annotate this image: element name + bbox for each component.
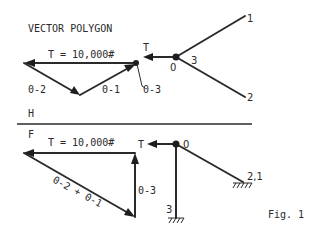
member-0-1-label: 0-1 bbox=[102, 84, 120, 95]
member-0-2-label: 0-2 bbox=[28, 84, 46, 95]
combined-member-label: 0-2 + 0-1 bbox=[51, 174, 104, 209]
tension-label: T bbox=[143, 42, 149, 53]
member-0-3-label: 0-3 bbox=[138, 185, 156, 196]
figure-title: VECTOR POLYGON bbox=[28, 23, 112, 34]
polygon-node bbox=[133, 60, 139, 66]
node-label: 0 bbox=[170, 62, 176, 73]
figure-caption: Fig. 1 bbox=[268, 209, 304, 220]
top-vector-polygon: T = 10,000# 0-2 0-1 0-3 bbox=[24, 49, 161, 95]
vector-polygon-figure: VECTOR POLYGON T = 10,000# 0-2 0-1 0-3 T… bbox=[0, 0, 319, 238]
member-2 bbox=[176, 57, 245, 97]
tension-label: T bbox=[138, 139, 144, 150]
node-label: 0 bbox=[183, 139, 189, 150]
joint-node bbox=[173, 54, 180, 61]
ground-support-icon bbox=[233, 183, 252, 188]
arrowhead-icon bbox=[143, 53, 153, 61]
end-1-label: 1 bbox=[247, 13, 253, 24]
joint-node bbox=[173, 141, 180, 148]
support-2-1-label: 2,1 bbox=[247, 171, 263, 182]
h-label: H bbox=[28, 108, 34, 119]
arrowhead-icon bbox=[131, 153, 139, 164]
arrowhead-icon bbox=[147, 140, 157, 148]
bottom-structure: T 3 2,1 0 bbox=[138, 139, 263, 223]
member-0-3-label: 0-3 bbox=[143, 84, 161, 95]
f-label: F bbox=[28, 129, 34, 140]
end-2-label: 2 bbox=[247, 92, 253, 103]
arrowhead-icon bbox=[124, 208, 135, 217]
support-3-label: 3 bbox=[166, 204, 172, 215]
combined-member-vector bbox=[24, 153, 130, 214]
tension-label: T = 10,000# bbox=[48, 137, 114, 148]
tension-label: T = 10,000# bbox=[48, 49, 114, 60]
member-3-label: 3 bbox=[191, 55, 197, 66]
member-1 bbox=[176, 16, 245, 57]
ground-support-icon bbox=[168, 218, 184, 223]
arrowhead-icon bbox=[70, 86, 80, 95]
bottom-vector-polygon: T = 10,000# 0-2 + 0-1 0-3 bbox=[23, 137, 156, 217]
